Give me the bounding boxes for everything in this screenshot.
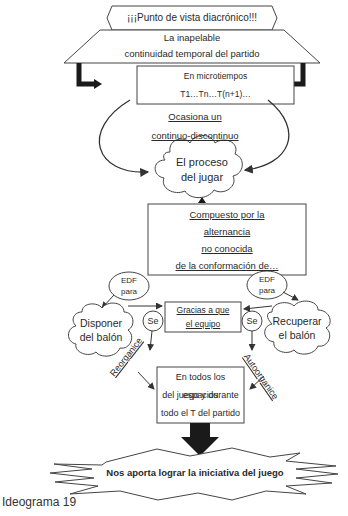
gracias-line-2: el equipo <box>165 317 241 331</box>
cloud-right-line-1: Recuperar <box>264 314 330 328</box>
cloud-left-line-1: Disponer <box>68 316 134 330</box>
microtiempos-line-1: En microtiempos <box>137 67 294 85</box>
se-left-label: Se <box>143 311 163 331</box>
edf-right-line-1: EDF <box>247 274 287 285</box>
microtiempos-line-2: T1…Tn…T(n+1)… <box>137 85 294 103</box>
ocasiona-line-2: continuo-discontinuo <box>130 126 260 145</box>
edf-right-line-2: para <box>247 285 287 296</box>
compuesto-line-3: no conocida <box>148 240 306 257</box>
se-right-label: Se <box>242 311 262 331</box>
trapezoid-line-1: La inapelable <box>100 30 284 46</box>
edf-left-line-2: para <box>109 286 149 297</box>
trapezoid-line-2: continuidad temporal del partido <box>70 46 314 62</box>
title-banner: ¡¡¡Punto de vista diacrónico!!! <box>108 7 276 29</box>
cloud-right-line-2: el balón <box>264 328 330 342</box>
figure-caption: Ideograma 19 <box>2 495 76 509</box>
compuesto-line-1: Compuesto por la <box>148 206 306 223</box>
cloud-center-line-1: El proceso <box>164 155 240 170</box>
cloud-center-line-2: del jugar <box>164 170 240 185</box>
compuesto-line-4: de la conformación de… <box>148 257 306 274</box>
espacios-line-3: todo el T del partido <box>157 404 244 422</box>
espacios-line-2: del juego y durante <box>157 386 244 404</box>
left-thick-arrow <box>79 63 96 84</box>
edf-left-line-1: EDF <box>109 275 149 286</box>
compuesto-line-2: alternancia <box>148 223 306 240</box>
ocasiona-line-1: Ocasiona un <box>130 107 260 126</box>
result-text: Nos aporta lograr la iniciativa del jueg… <box>90 465 300 481</box>
cloud-left-line-2: del balón <box>68 330 134 344</box>
gracias-line-1: Gracias a que <box>165 303 241 317</box>
big-down-arrow <box>181 423 219 456</box>
